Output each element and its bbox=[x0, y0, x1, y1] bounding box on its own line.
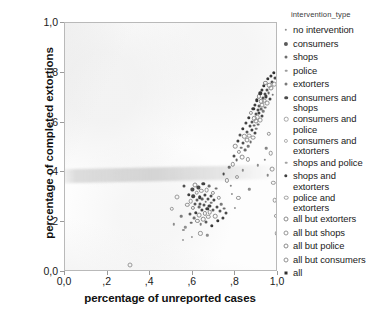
data-point bbox=[210, 201, 213, 204]
data-point bbox=[220, 203, 223, 206]
data-point bbox=[255, 128, 258, 131]
legend-marker-icon bbox=[283, 268, 293, 281]
data-point bbox=[268, 97, 271, 100]
data-point bbox=[228, 166, 231, 169]
legend-item[interactable]: consumers and shops bbox=[283, 93, 376, 114]
legend-marker-icon bbox=[283, 158, 293, 171]
legend-marker-icon bbox=[283, 25, 293, 38]
legend-item-label: consumers and extorters bbox=[293, 136, 356, 157]
data-point bbox=[274, 77, 277, 80]
data-point bbox=[266, 174, 269, 177]
legend-marker-icon bbox=[283, 214, 293, 227]
data-point bbox=[257, 118, 262, 123]
legend-title: intervention_type bbox=[291, 10, 376, 19]
legend-item-label: police bbox=[293, 66, 317, 77]
data-point bbox=[272, 82, 277, 87]
data-point bbox=[180, 215, 183, 218]
legend-item[interactable]: police bbox=[283, 66, 376, 79]
x-axis-label: percentage of unreported cases bbox=[62, 292, 278, 304]
x-axis-tick-label: 0,0 bbox=[57, 275, 72, 287]
data-point bbox=[194, 203, 197, 206]
data-point bbox=[235, 159, 238, 162]
legend-item[interactable]: no intervention bbox=[283, 25, 376, 38]
legend-item[interactable]: all but consumers bbox=[283, 255, 376, 268]
y-axis-tick bbox=[60, 72, 64, 73]
data-point bbox=[262, 110, 265, 113]
data-point bbox=[253, 132, 256, 135]
y-axis-tick-label: 0,0 bbox=[43, 265, 58, 277]
data-point bbox=[212, 208, 215, 211]
data-point bbox=[244, 149, 247, 152]
y-axis-tick bbox=[60, 221, 64, 222]
data-point bbox=[249, 141, 252, 144]
legend-marker-icon bbox=[283, 136, 293, 149]
data-point bbox=[174, 195, 179, 200]
data-point bbox=[182, 239, 184, 241]
legend-item[interactable]: shops and extorters bbox=[283, 171, 376, 192]
legend-marker-icon bbox=[283, 93, 293, 106]
data-point bbox=[205, 221, 208, 224]
legend-item[interactable]: all but police bbox=[283, 241, 376, 254]
data-point bbox=[188, 199, 193, 204]
y-axis-tick-label: ,4 bbox=[49, 165, 58, 177]
x-axis-tick-label: ,8 bbox=[230, 275, 239, 287]
legend-item[interactable]: shops bbox=[283, 52, 376, 65]
data-point bbox=[233, 155, 236, 158]
data-point bbox=[239, 155, 244, 160]
legend-marker-icon bbox=[283, 171, 293, 184]
legend-item-label: all bbox=[293, 268, 302, 279]
data-point bbox=[219, 209, 222, 212]
legend-marker-icon bbox=[283, 255, 293, 268]
data-point bbox=[265, 147, 268, 150]
data-point bbox=[252, 124, 255, 127]
legend-marker-icon bbox=[283, 241, 293, 254]
data-point bbox=[247, 145, 250, 148]
data-point bbox=[250, 135, 255, 140]
data-point bbox=[275, 231, 277, 235]
plot-area bbox=[64, 22, 277, 271]
y-axis-tick bbox=[60, 122, 64, 123]
legend-item[interactable]: consumers bbox=[283, 39, 376, 52]
legend-item-label: consumers and shops bbox=[293, 93, 356, 114]
data-point bbox=[265, 101, 270, 106]
scatter-plot-figure: percentage of completed extortions perce… bbox=[0, 0, 376, 319]
legend-item[interactable]: extorters bbox=[283, 79, 376, 92]
legend-item[interactable]: all but extorters bbox=[283, 214, 376, 227]
data-point bbox=[242, 142, 245, 145]
data-point bbox=[200, 223, 203, 226]
plot-background bbox=[65, 23, 276, 270]
legend-item-label: all but police bbox=[293, 241, 344, 252]
data-point bbox=[233, 144, 238, 149]
legend-item-label: all but extorters bbox=[293, 214, 356, 225]
y-axis-tick-label: ,2 bbox=[49, 215, 58, 227]
y-axis-tick bbox=[60, 271, 64, 272]
data-point bbox=[264, 106, 267, 109]
legend-item[interactable]: all bbox=[283, 268, 376, 281]
data-point bbox=[248, 125, 251, 128]
data-point bbox=[239, 133, 242, 136]
x-axis-tick-label: ,2 bbox=[102, 275, 111, 287]
data-point bbox=[274, 214, 277, 218]
data-point bbox=[188, 213, 191, 216]
data-point bbox=[204, 187, 209, 192]
legend-item-label: no intervention bbox=[293, 25, 354, 36]
legend-item[interactable]: consumers and extorters bbox=[283, 136, 376, 157]
data-point bbox=[213, 214, 218, 219]
legend-item[interactable]: shops and police bbox=[283, 158, 376, 171]
legend-marker-icon bbox=[283, 193, 293, 206]
legend-items: no interventionconsumersshopspoliceextor… bbox=[283, 25, 376, 281]
legend-item[interactable]: consumers and police bbox=[283, 114, 376, 135]
legend-item[interactable]: all but shops bbox=[283, 228, 376, 241]
data-point bbox=[260, 114, 263, 117]
y-axis-tick-label: ,6 bbox=[49, 116, 58, 128]
legend-item[interactable]: police and extorters bbox=[283, 193, 376, 214]
data-point bbox=[267, 91, 270, 94]
legend-item-label: all but shops bbox=[293, 228, 345, 239]
legend-item-label: consumers and police bbox=[293, 114, 356, 135]
legend-item-label: shops bbox=[293, 52, 318, 63]
data-point bbox=[240, 146, 243, 149]
data-point bbox=[222, 173, 225, 176]
data-point bbox=[127, 262, 132, 267]
data-point bbox=[204, 200, 207, 203]
legend-item-label: police and extorters bbox=[293, 193, 335, 214]
